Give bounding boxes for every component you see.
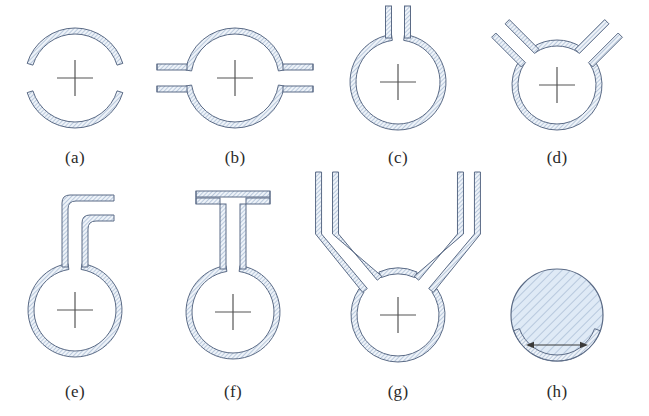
panel-g <box>316 172 481 362</box>
panel-a <box>27 28 123 128</box>
figure-sheet: (a)(b)(c)(d)(e)(f)(g)(h) <box>0 0 649 416</box>
panel-e <box>28 195 122 357</box>
panel-b <box>157 28 313 128</box>
panel-label-c: (c) <box>358 148 438 168</box>
panel-h <box>511 269 603 361</box>
panel-d <box>492 20 623 130</box>
panel-label-f: (f) <box>193 382 273 402</box>
figure-canvas <box>0 0 649 416</box>
panel-label-h: (h) <box>517 382 597 402</box>
panel-f <box>186 191 280 359</box>
panel-label-e: (e) <box>35 382 115 402</box>
panel-label-g: (g) <box>358 382 438 402</box>
panel-label-b: (b) <box>195 148 275 168</box>
panel-label-a: (a) <box>35 148 115 168</box>
panel-c <box>350 6 446 130</box>
panel-label-d: (d) <box>517 148 597 168</box>
